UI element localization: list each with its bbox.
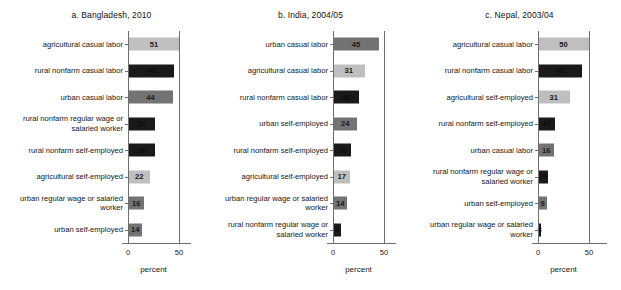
bar-wrapper: 17 bbox=[538, 117, 555, 130]
bar-wrapper: 17 bbox=[333, 170, 350, 183]
bar-value-label: 44 bbox=[145, 93, 155, 101]
bar: 43 bbox=[538, 64, 582, 77]
bar-value-label: 43 bbox=[555, 67, 565, 75]
bar: 26 bbox=[128, 117, 155, 130]
bar-value-label: 14 bbox=[130, 226, 140, 234]
bar-category-label: rural nonfarm regular wage or salaried w… bbox=[414, 167, 538, 186]
x-axis-line-india bbox=[327, 243, 396, 244]
bar-category-label: urban casual labor bbox=[209, 40, 333, 49]
bar-value-label: 17 bbox=[541, 120, 551, 128]
bar: 14 bbox=[128, 223, 142, 236]
bar-wrapper: 24 bbox=[333, 117, 357, 130]
bar-row: urban regular wage or salaried worker3 bbox=[414, 217, 607, 244]
bar-track: 44 bbox=[128, 84, 191, 111]
bar-wrapper: 14 bbox=[333, 197, 347, 210]
bar-value-label: 16 bbox=[131, 199, 141, 207]
category-axis-bangladesh bbox=[128, 31, 129, 243]
bar-value-label: 45 bbox=[146, 67, 156, 75]
bar-track: 17 bbox=[333, 164, 396, 191]
bar-row: rural nonfarm casual labor45 bbox=[4, 58, 191, 85]
bar: 50 bbox=[538, 38, 589, 51]
bar-track: 17 bbox=[538, 111, 607, 138]
plot-area-nepal: agricultural casual labor50rural nonfarm… bbox=[414, 31, 607, 243]
value-axis-line-nepal bbox=[589, 31, 590, 244]
bar-rows-bangladesh: agricultural casual labor51rural nonfarm… bbox=[4, 31, 191, 243]
bar-wrapper: 8 bbox=[333, 223, 341, 236]
bar-row: urban self-employed9 bbox=[414, 190, 607, 217]
bar-track: 18 bbox=[333, 137, 396, 164]
x-axis-caption-bangladesh: percent bbox=[140, 265, 167, 274]
bar-wrapper: 26 bbox=[128, 117, 155, 130]
bar-category-label: agricultural casual labor bbox=[414, 40, 538, 49]
bar-row: urban casual labor16 bbox=[414, 137, 607, 164]
bar-value-label: 10 bbox=[538, 173, 548, 181]
bar-row: rural nonfarm regular wage or salaried w… bbox=[209, 217, 396, 244]
x-axis-line-bangladesh bbox=[122, 243, 191, 244]
bar-value-label: 26 bbox=[136, 146, 146, 154]
x-axis-line-nepal bbox=[532, 243, 607, 244]
bar-wrapper: 44 bbox=[128, 91, 173, 104]
bar: 17 bbox=[333, 170, 350, 183]
bar-category-label: rural nonfarm self-employed bbox=[209, 146, 333, 155]
bar-category-label: rural nonfarm casual labor bbox=[209, 93, 333, 102]
x-tick-label: 50 bbox=[175, 248, 183, 257]
bar-track: 51 bbox=[128, 31, 191, 58]
bar-track: 3 bbox=[538, 217, 607, 244]
bar-wrapper: 16 bbox=[128, 197, 144, 210]
panel-title-nepal: c. Nepal, 2003/04 bbox=[410, 10, 621, 20]
x-tick-label: 50 bbox=[380, 248, 388, 257]
bar-wrapper: 25 bbox=[333, 91, 359, 104]
bar-track: 8 bbox=[333, 217, 396, 244]
bar-category-label: agricultural self-employed bbox=[209, 172, 333, 181]
bar-wrapper: 31 bbox=[333, 64, 365, 77]
bar-row: agricultural casual labor51 bbox=[4, 31, 191, 58]
bar-track: 14 bbox=[128, 217, 191, 244]
bar-row: urban self-employed24 bbox=[209, 111, 396, 138]
bar-category-label: rural nonfarm self-employed bbox=[414, 119, 538, 128]
bar-row: urban regular wage or salaried worker14 bbox=[209, 190, 396, 217]
bar: 16 bbox=[538, 144, 554, 157]
bar-wrapper: 22 bbox=[128, 170, 150, 183]
bar: 14 bbox=[333, 197, 347, 210]
bar-track: 26 bbox=[128, 137, 191, 164]
bar-track: 22 bbox=[128, 164, 191, 191]
bar-value-label: 31 bbox=[549, 93, 559, 101]
bar-track: 25 bbox=[333, 84, 396, 111]
category-axis-nepal bbox=[538, 31, 539, 243]
bar-track: 16 bbox=[128, 190, 191, 217]
bar-row: urban casual labor44 bbox=[4, 84, 191, 111]
bar-track: 10 bbox=[538, 164, 607, 191]
bar-track: 50 bbox=[538, 31, 607, 58]
bar-rows-india: urban casual labor45agricultural casual … bbox=[209, 31, 396, 243]
bar-wrapper: 31 bbox=[538, 91, 570, 104]
bar-row: rural nonfarm self-employed26 bbox=[4, 137, 191, 164]
bar-category-label: agricultural casual labor bbox=[209, 66, 333, 75]
bar: 26 bbox=[128, 144, 155, 157]
x-axis-caption-nepal: percent bbox=[550, 265, 577, 274]
bar: 45 bbox=[128, 64, 174, 77]
bar: 24 bbox=[333, 117, 357, 130]
x-tick-label: 0 bbox=[536, 248, 540, 257]
bar-value-label: 51 bbox=[149, 40, 159, 48]
bar-wrapper: 43 bbox=[538, 64, 582, 77]
bar-value-label: 31 bbox=[344, 67, 354, 75]
x-axis-caption-india: percent bbox=[345, 265, 372, 274]
bar-wrapper: 14 bbox=[128, 223, 142, 236]
panel-title-bangladesh: a. Bangladesh, 2010 bbox=[0, 10, 205, 20]
bar: 51 bbox=[128, 38, 180, 51]
bar-row: agricultural self-employed31 bbox=[414, 84, 607, 111]
bar-category-label: agricultural casual labor bbox=[4, 40, 128, 49]
bar-category-label: urban regular wage or salaried worker bbox=[414, 220, 538, 239]
bar-category-label: urban casual labor bbox=[414, 146, 538, 155]
bar-value-label: 22 bbox=[134, 173, 144, 181]
bar-row: urban self-employed14 bbox=[4, 217, 191, 244]
bar-track: 16 bbox=[538, 137, 607, 164]
bar-value-label: 17 bbox=[336, 173, 346, 181]
bar-value-label: 50 bbox=[558, 40, 568, 48]
bar-wrapper: 18 bbox=[333, 144, 351, 157]
x-tick-labels-bangladesh: 050 bbox=[4, 248, 191, 260]
bar-track: 9 bbox=[538, 190, 607, 217]
bar-row: rural nonfarm self-employed18 bbox=[209, 137, 396, 164]
bar-row: agricultural casual labor50 bbox=[414, 31, 607, 58]
bar-wrapper: 10 bbox=[538, 170, 548, 183]
